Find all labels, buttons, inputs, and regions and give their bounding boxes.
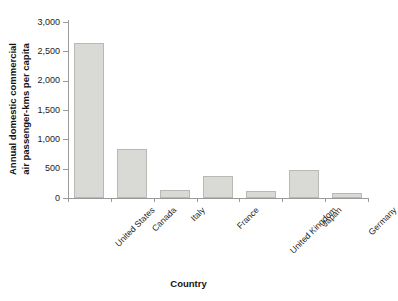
y-tick-mark	[63, 169, 68, 170]
y-tick-mark	[63, 139, 68, 140]
x-tick-mark	[197, 198, 198, 202]
bar	[74, 43, 104, 198]
bar	[332, 193, 362, 198]
y-tick-label: 3,000	[14, 18, 60, 27]
x-tick-mark	[368, 198, 369, 202]
x-tick-mark	[111, 198, 112, 202]
y-tick-label: 500	[14, 164, 60, 173]
x-tick-mark	[282, 198, 283, 202]
y-axis-line	[68, 20, 69, 200]
bar	[203, 176, 233, 198]
x-axis-line	[68, 198, 368, 199]
x-tick-label: France	[235, 205, 261, 231]
x-tick-mark	[154, 198, 155, 202]
x-tick-mark	[239, 198, 240, 202]
bar	[246, 191, 276, 198]
y-tick-mark	[63, 22, 68, 23]
y-tick-label: 1,000	[14, 135, 60, 144]
x-tick-label: Japan	[320, 205, 344, 229]
y-tick-label: 1,500	[14, 106, 60, 115]
x-tick-label: Italy	[189, 205, 207, 223]
y-tick-label: 2,500	[14, 47, 60, 56]
y-tick-mark	[63, 81, 68, 82]
x-axis-title: Country	[0, 278, 377, 289]
x-tick-mark	[325, 198, 326, 202]
bar	[289, 170, 319, 198]
y-tick-label: 2,000	[14, 76, 60, 85]
x-tick-mark	[68, 198, 69, 202]
bar	[160, 190, 190, 198]
x-tick-label: Germany	[366, 205, 398, 237]
y-tick-label: 0	[14, 194, 60, 203]
y-tick-mark	[63, 51, 68, 52]
bar	[117, 149, 147, 198]
y-tick-mark	[63, 110, 68, 111]
